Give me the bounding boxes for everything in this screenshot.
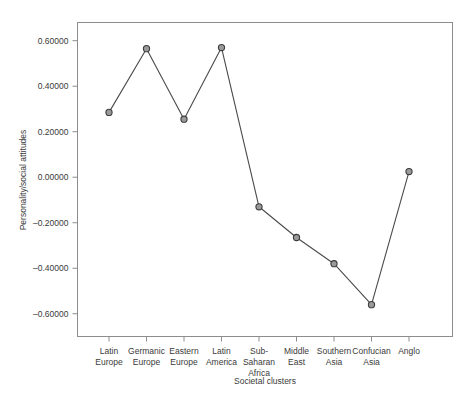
data-point-marker xyxy=(218,44,224,50)
data-point-marker xyxy=(368,302,374,308)
y-axis-ticks: 0.600000.400000.200000.00000–0.20000–0.4… xyxy=(33,36,77,319)
x-tick-label: Eastern xyxy=(169,346,199,356)
data-series xyxy=(109,48,409,305)
data-point-marker xyxy=(293,234,299,240)
y-tick-label: 0.40000 xyxy=(38,81,69,91)
data-point-marker xyxy=(331,261,337,267)
y-tick-label: –0.20000 xyxy=(33,218,69,228)
x-tick-label: Confucian xyxy=(352,346,391,356)
x-tick-label: Asia xyxy=(326,357,343,367)
data-markers xyxy=(106,44,412,307)
x-axis-ticks: LatinEuropeGermanicEuropeEasternEuropeLa… xyxy=(95,337,420,378)
x-tick-label: Latin xyxy=(100,346,119,356)
x-tick-label: America xyxy=(206,357,237,367)
y-tick-label: 0.00000 xyxy=(38,172,69,182)
x-tick-label: Germanic xyxy=(128,346,166,356)
x-tick-label: Anglo xyxy=(398,346,420,356)
x-tick-label: East xyxy=(288,357,306,367)
x-tick-label: Latin xyxy=(212,346,231,356)
y-tick-label: –0.40000 xyxy=(33,263,69,273)
x-axis-title: Societal clusters xyxy=(234,376,296,386)
x-tick-label: Europe xyxy=(170,357,198,367)
line-chart: 0.600000.400000.200000.00000–0.20000–0.4… xyxy=(0,0,471,400)
series-line xyxy=(109,48,409,305)
x-tick-label: Europe xyxy=(95,357,123,367)
data-point-marker xyxy=(106,109,112,115)
y-tick-label: –0.60000 xyxy=(33,309,69,319)
data-point-marker xyxy=(406,168,412,174)
data-point-marker xyxy=(256,204,262,210)
chart-container: 0.600000.400000.200000.00000–0.20000–0.4… xyxy=(0,0,471,400)
x-tick-label: Asia xyxy=(363,357,380,367)
x-tick-label: Southern xyxy=(317,346,352,356)
x-tick-label: Europe xyxy=(133,357,161,367)
y-axis-title: Personality/social attitudes xyxy=(18,130,28,231)
x-tick-label: Sub- xyxy=(250,346,268,356)
y-tick-label: 0.20000 xyxy=(38,127,69,137)
x-tick-label: Middle xyxy=(284,346,309,356)
x-tick-label: Saharan xyxy=(243,357,275,367)
data-point-marker xyxy=(181,116,187,122)
data-point-marker xyxy=(143,46,149,52)
y-tick-label: 0.60000 xyxy=(38,36,69,46)
